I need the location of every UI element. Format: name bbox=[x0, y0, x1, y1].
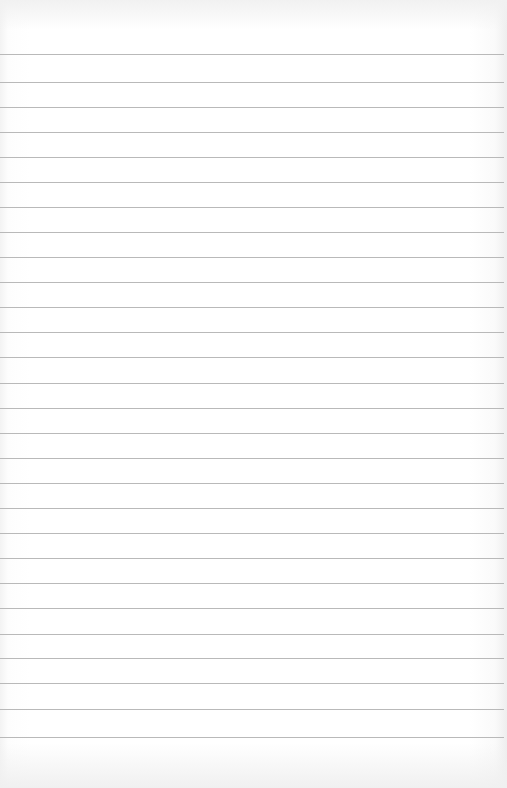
ruled-line bbox=[0, 232, 504, 233]
ruled-line bbox=[0, 383, 504, 384]
ruled-line bbox=[0, 583, 504, 584]
ruled-line bbox=[0, 107, 504, 108]
ruled-line bbox=[0, 408, 504, 409]
ruled-line bbox=[0, 508, 504, 509]
ruled-line bbox=[0, 634, 504, 635]
ruled-line bbox=[0, 54, 504, 55]
ruled-line bbox=[0, 257, 504, 258]
ruled-line bbox=[0, 433, 504, 434]
ruled-line bbox=[0, 282, 504, 283]
ruled-line bbox=[0, 483, 504, 484]
ruled-line bbox=[0, 182, 504, 183]
ruled-line bbox=[0, 82, 504, 83]
ruled-line bbox=[0, 709, 504, 710]
ruled-line bbox=[0, 658, 504, 659]
ruled-line bbox=[0, 458, 504, 459]
ruled-line bbox=[0, 608, 504, 609]
ruled-line bbox=[0, 157, 504, 158]
ruled-line bbox=[0, 737, 504, 738]
ruled-line bbox=[0, 357, 504, 358]
ruled-line bbox=[0, 207, 504, 208]
ruled-line bbox=[0, 683, 504, 684]
ruled-line bbox=[0, 558, 504, 559]
ruled-line bbox=[0, 132, 504, 133]
ruled-line bbox=[0, 307, 504, 308]
ruled-line bbox=[0, 533, 504, 534]
lined-paper-sheet bbox=[0, 0, 507, 788]
ruled-line bbox=[0, 332, 504, 333]
